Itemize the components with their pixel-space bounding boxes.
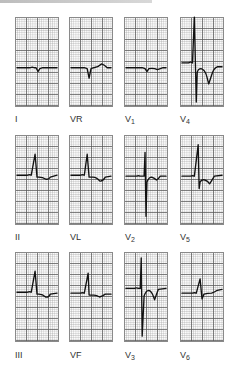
lead-label-vr: VR: [70, 114, 83, 127]
lead-label-v6: V6: [180, 350, 190, 363]
lead-label-vf: VF: [70, 350, 82, 363]
lead-label-v1: V1: [125, 114, 135, 127]
ecg-panel-lead-v4: [180, 17, 224, 107]
top-divider-bar: [0, 0, 152, 3]
lead-label-v3: V3: [125, 350, 135, 363]
ecg-panel-lead-i: [15, 17, 59, 107]
lead-label-ii: II: [15, 232, 20, 245]
ecg-panel-lead-vf: [69, 252, 113, 342]
ecg-panel-lead-vr: [69, 17, 113, 107]
ecg-trace-lead-i: [16, 18, 58, 106]
ecg-trace-lead-v5: [181, 136, 223, 224]
lead-label-v2: V2: [125, 232, 135, 245]
ecg-trace-lead-vf: [70, 253, 112, 341]
ecg-panel-lead-v1: [124, 17, 168, 107]
ecg-panel-lead-v2: [124, 135, 168, 225]
ecg-panel-lead-v3: [124, 252, 168, 342]
ecg-panel-lead-v6: [180, 252, 224, 342]
ecg-trace-lead-v1: [125, 18, 167, 106]
ecg-panel-lead-vl: [69, 135, 113, 225]
ecg-trace-lead-v3: [125, 253, 167, 341]
ecg-panel-lead-iii: [15, 252, 59, 342]
lead-label-vl: VL: [70, 232, 81, 245]
lead-label-v5: V5: [180, 232, 190, 245]
ecg-panel-lead-ii: [15, 135, 59, 225]
ecg-trace-lead-v4: [181, 18, 223, 106]
lead-label-i: I: [15, 114, 18, 127]
lead-label-v4: V4: [180, 114, 190, 127]
ecg-trace-lead-v6: [181, 253, 223, 341]
ecg-trace-lead-vr: [70, 18, 112, 106]
ecg-trace-lead-v2: [125, 136, 167, 224]
ecg-trace-lead-ii: [16, 136, 58, 224]
ecg-trace-lead-iii: [16, 253, 58, 341]
lead-label-iii: III: [15, 350, 23, 363]
ecg-trace-lead-vl: [70, 136, 112, 224]
ecg-panel-lead-v5: [180, 135, 224, 225]
